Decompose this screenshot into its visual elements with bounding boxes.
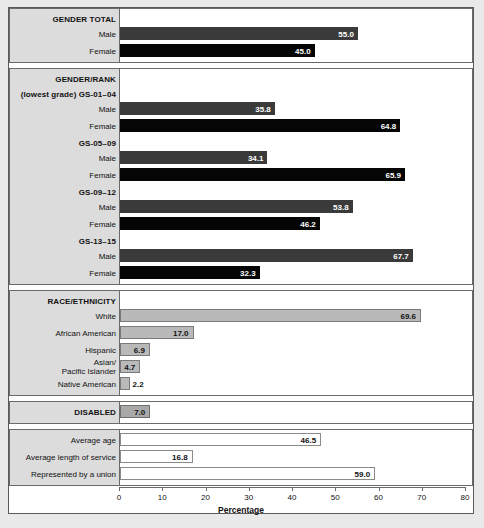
x-axis-tick-label: 10 (158, 493, 167, 502)
bar: 6.9 (120, 343, 150, 356)
bar-label: Hispanic (10, 346, 120, 355)
section-heading: GS-13–15 (10, 237, 120, 246)
bar: 16.8 (120, 450, 193, 463)
chart-section: DISABLED7.0 (9, 401, 473, 424)
section-bar-area: RACE/ETHNICITYWhite69.6African American1… (120, 291, 472, 395)
x-axis-tick (249, 487, 250, 491)
bar-label: African American (10, 329, 120, 338)
x-axis: Percentage 01020304050607080 (9, 487, 473, 527)
bar: 7.0 (120, 405, 150, 418)
x-axis-tick-label: 80 (461, 493, 470, 502)
x-axis-tick (162, 487, 163, 491)
x-axis-tick (292, 487, 293, 491)
chart-section: GENDER/RANK(lowest grade) GS-01–04Male35… (9, 68, 473, 285)
section-heading: GS-09–12 (10, 188, 120, 197)
chart-section: GENDER TOTALMale55.0Female45.0 (9, 8, 473, 63)
bar-label: Male (10, 252, 120, 261)
bar-label: Female (10, 269, 120, 278)
bar: 46.2 (120, 217, 320, 230)
section-bar-area: GENDER TOTALMale55.0Female45.0 (120, 9, 472, 62)
bar-label: Average age (10, 436, 120, 445)
bar-label: Female (10, 47, 120, 56)
bar-label: Asian/ Pacific Islander (10, 358, 120, 376)
section-bar-area: Average age46.5Average length of service… (120, 430, 472, 485)
bar-value-label: 64.8 (381, 121, 397, 130)
bar: 2.2 (120, 377, 130, 390)
bar-value-label: 53.8 (333, 202, 349, 211)
bar-value-label: 65.9 (385, 170, 401, 179)
bar: 64.8 (120, 119, 400, 132)
x-axis-tick-label: 70 (417, 493, 426, 502)
bar: 67.7 (120, 249, 413, 262)
bar-value-label: 55.0 (338, 29, 354, 38)
bar: 34.1 (120, 151, 267, 164)
chart-section: Average age46.5Average length of service… (9, 429, 473, 486)
x-axis-tick-label: 20 (201, 493, 210, 502)
bar: 59.0 (120, 467, 375, 480)
bar: 4.7 (120, 360, 140, 373)
bar-label: Female (10, 220, 120, 229)
bar: 46.5 (120, 433, 321, 446)
chart-frame: GENDER TOTALMale55.0Female45.0GENDER/RAN… (8, 7, 474, 514)
bar-value-label: 17.0 (173, 328, 189, 337)
x-axis-tick-label: 40 (288, 493, 297, 502)
bar-label: Male (10, 154, 120, 163)
bar-label: DISABLED (10, 408, 120, 417)
bar-label: Male (10, 30, 120, 39)
bar-value-label: 2.2 (133, 379, 144, 388)
bar-value-label: 45.0 (295, 46, 311, 55)
bar-value-label: 7.0 (134, 407, 145, 416)
x-axis-tick (206, 487, 207, 491)
x-axis-tick (379, 487, 380, 491)
x-axis-tick-label: 30 (244, 493, 253, 502)
bar-value-label: 69.6 (400, 311, 416, 320)
bar: 69.6 (120, 309, 421, 322)
bar: 65.9 (120, 168, 405, 181)
x-axis-tick (465, 487, 466, 491)
bar: 53.8 (120, 200, 353, 213)
x-axis-tick (335, 487, 336, 491)
section-heading: GENDER TOTAL (10, 15, 120, 24)
bar-value-label: 59.0 (355, 469, 371, 478)
chart-section: RACE/ETHNICITYWhite69.6African American1… (9, 290, 473, 396)
bar-value-label: 34.1 (248, 153, 264, 162)
bar-label: Male (10, 203, 120, 212)
x-axis-tick-label: 0 (117, 493, 121, 502)
section-bar-area: DISABLED7.0 (120, 402, 472, 423)
bar: 55.0 (120, 27, 358, 40)
bar-value-label: 6.9 (134, 345, 145, 354)
section-bar-area: GENDER/RANK(lowest grade) GS-01–04Male35… (120, 69, 472, 284)
bar: 35.8 (120, 102, 275, 115)
section-heading: GENDER/RANK (10, 75, 120, 84)
x-axis-tick-label: 50 (331, 493, 340, 502)
bar-label: Average length of service (10, 453, 120, 462)
bar-value-label: 32.3 (240, 268, 256, 277)
bar-label: Male (10, 105, 120, 114)
section-heading: (lowest grade) GS-01–04 (10, 90, 120, 99)
x-axis-title: Percentage (9, 505, 473, 515)
bar-value-label: 35.8 (255, 104, 271, 113)
section-heading: RACE/ETHNICITY (10, 297, 120, 306)
bar-value-label: 46.5 (301, 435, 317, 444)
x-axis-tick-label: 60 (374, 493, 383, 502)
bar-value-label: 4.7 (124, 362, 135, 371)
bar-label: Represented by a union (10, 470, 120, 479)
bar-label: Female (10, 122, 120, 131)
bar: 32.3 (120, 266, 260, 279)
bar-label: Female (10, 171, 120, 180)
x-axis-tick (119, 487, 120, 491)
bar-value-label: 67.7 (393, 251, 409, 260)
bar: 45.0 (120, 44, 315, 57)
bar-label: White (10, 312, 120, 321)
x-axis-tick (422, 487, 423, 491)
bar-value-label: 16.8 (172, 452, 188, 461)
page-background: GENDER TOTALMale55.0Female45.0GENDER/RAN… (0, 0, 484, 528)
bar-value-label: 46.2 (300, 219, 316, 228)
bar: 17.0 (120, 326, 194, 339)
bar-label: Native American (10, 380, 120, 389)
section-heading: GS-05–09 (10, 139, 120, 148)
